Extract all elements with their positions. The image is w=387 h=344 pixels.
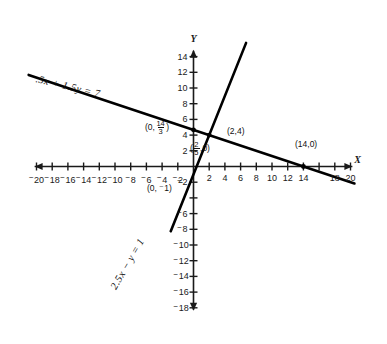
point-marker-x-intercept-line1: [301, 164, 306, 169]
x-tick-label: 12: [283, 174, 293, 183]
point-label-y-intercept-line2: (0, ⁻1): [147, 184, 172, 193]
y-tick-label: 4: [174, 131, 188, 140]
y-tick-label: −12: [174, 255, 188, 266]
y-axis-label: Y: [191, 33, 197, 44]
y-tick-label: 10: [174, 84, 188, 93]
point-marker-intersection: [207, 133, 212, 138]
point-label-intersection: (2,4): [227, 127, 244, 136]
y-axis-arrow-down: [190, 303, 197, 311]
point-label-x-intercept-line1: (14,0): [295, 140, 317, 149]
y-tick-label: −8: [174, 224, 188, 235]
x-tick-label: −12: [92, 174, 107, 185]
y-tick-label: −6: [174, 208, 188, 219]
x-tick-label: −10: [107, 174, 122, 185]
x-tick-label: −18: [45, 174, 60, 185]
y-tick-label: −2: [174, 177, 188, 188]
x-tick-label: 20: [345, 174, 355, 183]
point-label-x-intercept-line2: (25,0): [190, 141, 210, 156]
coordinate-graph-figure: −20−18−16−14−12−10−8−6−4−224681012141820…: [0, 0, 387, 344]
y-tick-label: 12: [174, 68, 188, 77]
point-label-y-intercept-line1: (0,143): [145, 120, 169, 135]
x-tick-label: −8: [126, 174, 136, 185]
x-tick-label: 6: [238, 174, 243, 183]
y-tick-label: −14: [174, 271, 188, 282]
x-axis-label: X: [354, 154, 361, 165]
y-tick-label: 6: [174, 115, 188, 124]
x-tick-label: 2: [207, 174, 212, 183]
x-tick-label: 4: [222, 174, 227, 183]
y-tick-label: −10: [174, 240, 188, 251]
point-marker-y-intercept-line1: [191, 127, 196, 132]
y-tick-label: −18: [174, 303, 188, 314]
x-tick-label: −20: [29, 174, 44, 185]
y-tick-label: 2: [174, 146, 188, 155]
x-tick-label: 8: [254, 174, 259, 183]
x-tick-label: 14: [298, 174, 308, 183]
y-tick-label: 14: [174, 52, 188, 61]
x-tick-label: 10: [267, 174, 277, 183]
y-tick-label: −16: [174, 287, 188, 298]
x-tick-label: 18: [330, 174, 340, 183]
plot-lines-group: [29, 43, 355, 231]
y-tick-label: 8: [174, 99, 188, 108]
x-tick-label: −16: [60, 174, 75, 185]
x-tick-label: −14: [76, 174, 91, 185]
